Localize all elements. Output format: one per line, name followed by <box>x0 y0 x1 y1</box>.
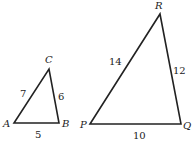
triangle-abc: A B C 5 6 7 <box>2 54 69 140</box>
triangle-pqr: P Q R 10 12 14 <box>79 0 191 141</box>
vertex-q-label: Q <box>183 120 191 131</box>
vertex-r-label: R <box>154 0 163 11</box>
vertex-b-label: B <box>61 118 69 129</box>
triangle-pqr-shape <box>90 14 181 124</box>
similar-triangles-diagram: A B C 5 6 7 P Q R 10 12 14 <box>0 0 192 141</box>
vertex-p-label: P <box>79 119 87 130</box>
vertex-a-label: A <box>2 118 10 129</box>
side-qr-length: 12 <box>173 65 186 76</box>
side-rp-length: 14 <box>109 56 122 67</box>
vertex-c-label: C <box>45 54 53 65</box>
side-bc-length: 6 <box>58 91 64 102</box>
side-pq-length: 10 <box>133 130 146 141</box>
side-ca-length: 7 <box>20 88 26 99</box>
side-ab-length: 5 <box>35 129 41 140</box>
